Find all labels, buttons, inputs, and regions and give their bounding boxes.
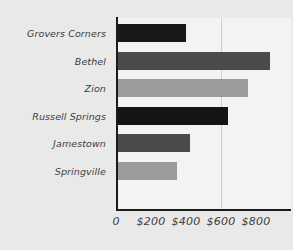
bar-jamestown [116, 134, 190, 152]
x-tick-label-3: $600 [207, 215, 236, 229]
category-label-5: Springville [0, 166, 106, 177]
bar-russell-springs [116, 107, 228, 125]
bar-grovers-corners [116, 24, 186, 42]
bar-zion [116, 79, 248, 97]
plot-area [116, 18, 291, 210]
bar-springville [116, 162, 177, 180]
bar-bethel [116, 52, 270, 70]
category-axis-labels: Grovers Corners Bethel Zion Russell Spri… [0, 20, 111, 210]
category-label-1: Bethel [0, 56, 106, 67]
x-axis-tick-labels: 0 $200 $400 $600 $800 [0, 215, 293, 235]
x-tick-label-1: $200 [137, 215, 166, 229]
category-label-3: Russell Springs [0, 111, 106, 122]
x-axis-line [116, 209, 291, 211]
x-tick-label-2: $400 [172, 215, 201, 229]
x-tick-label-0: 0 [112, 215, 119, 229]
y-axis-line [116, 17, 118, 211]
x-tick-label-4: $800 [242, 215, 271, 229]
bar-chart: Grovers Corners Bethel Zion Russell Spri… [0, 0, 293, 250]
category-label-2: Zion [0, 83, 106, 94]
category-label-0: Grovers Corners [0, 28, 106, 39]
category-label-4: Jamestown [0, 138, 106, 149]
